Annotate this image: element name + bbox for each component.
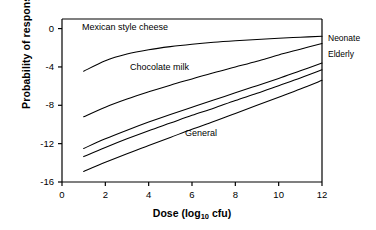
x-tick-label: 0: [50, 189, 74, 200]
x-axis-label: Dose (log10 cfu): [62, 203, 322, 221]
curve-mexican-style-cheese: [84, 36, 322, 71]
axis-frame: [62, 19, 322, 182]
x-axis-ticks: [62, 182, 322, 186]
x-axis-label-main: Dose (log: [153, 207, 201, 219]
x-axis-label-subscript: 10: [201, 212, 209, 221]
curve-general: [84, 80, 322, 171]
x-tick-label: 2: [93, 189, 117, 200]
y-tick-label: -16: [28, 176, 54, 187]
curve-chocolate-milk: [84, 43, 322, 116]
curve-elderly: [84, 70, 322, 157]
x-tick-label: 10: [267, 189, 291, 200]
curve-annotation-chocolate-milk: Chocolate milk: [130, 62, 189, 72]
y-tick-label: -12: [28, 138, 54, 149]
x-tick-label: 6: [180, 189, 204, 200]
data-curves: [84, 36, 322, 171]
x-tick-label: 4: [137, 189, 161, 200]
series-label-elderly: Elderly: [328, 49, 354, 59]
y-tick-label: -8: [28, 99, 54, 110]
x-axis-label-tail: cfu): [209, 207, 231, 219]
x-tick-label: 12: [310, 189, 334, 200]
y-tick-label: -4: [28, 61, 54, 72]
x-tick-label: 8: [223, 189, 247, 200]
y-axis-label-main: Probability of response (log: [20, 0, 32, 109]
curve-annotation-mexican-style-cheese: Mexican style cheese: [82, 22, 168, 32]
y-tick-label: 0: [28, 23, 54, 34]
chart-figure: Probability of response (log10) Dose (lo…: [0, 0, 376, 230]
curve-annotation-general: General: [185, 128, 217, 138]
series-label-neonate: Neonate: [328, 33, 360, 43]
